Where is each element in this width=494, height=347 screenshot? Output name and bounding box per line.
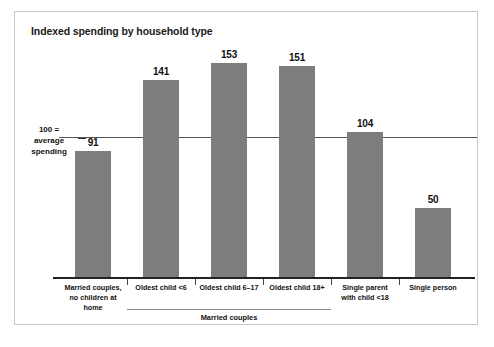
category-label: Single person — [399, 283, 467, 293]
bar[interactable] — [211, 63, 247, 279]
bar-value-label: 104 — [357, 118, 373, 129]
x-axis-baseline — [53, 277, 475, 279]
category-label-line: Oldest child 6–17 — [195, 283, 263, 293]
category-label: Oldest child 6–17 — [195, 283, 263, 293]
bar-slot: 104 — [331, 46, 399, 279]
bar-value-label: 141 — [153, 66, 169, 77]
category-label: Oldest child 18+ — [263, 283, 331, 293]
category-label-line: Oldest child <6 — [127, 283, 195, 293]
bar-slot: 50 — [399, 46, 467, 279]
chart-figure: Indexed spending by household type 100 =… — [14, 11, 478, 325]
bar-value-label: 91 — [88, 137, 99, 148]
bar[interactable] — [347, 132, 383, 279]
bar[interactable] — [143, 80, 179, 279]
bar-value-label: 151 — [289, 52, 305, 63]
group-bracket-line — [127, 309, 331, 310]
group-bracket-label: Married couples — [127, 313, 331, 322]
bar-slot: 91 — [59, 46, 127, 279]
category-label: Single parentwith child <18 — [331, 283, 399, 303]
bar[interactable] — [415, 208, 451, 279]
bar-value-label: 50 — [428, 194, 439, 205]
category-label-line: with child <18 — [331, 293, 399, 303]
category-label-line: Oldest child 18+ — [263, 283, 331, 293]
category-label-line: Single person — [399, 283, 467, 293]
bar-value-label: 153 — [221, 49, 237, 60]
category-label: Married couples,no children at home — [59, 283, 127, 313]
bar[interactable] — [75, 151, 111, 280]
category-label: Oldest child <6 — [127, 283, 195, 293]
bar-slot: 151 — [263, 46, 331, 279]
category-label-line: Single parent — [331, 283, 399, 293]
plot-area: 9114115315110450 — [59, 46, 467, 279]
category-label-line: Married couples, — [59, 283, 127, 293]
chart-title: Indexed spending by household type — [31, 25, 213, 37]
category-label-line: no children at home — [59, 293, 127, 313]
bar-slot: 141 — [127, 46, 195, 279]
bar[interactable] — [279, 66, 315, 279]
bar-slot: 153 — [195, 46, 263, 279]
